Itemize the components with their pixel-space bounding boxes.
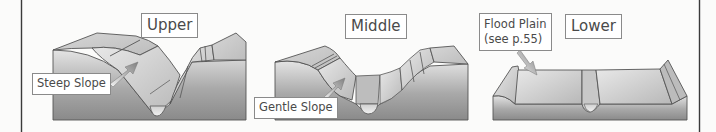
river-valley-diagram: Upper Steep Slope Middle Gentle Slope Fl… xyxy=(0,0,716,132)
lower-valley-block xyxy=(493,50,687,120)
flood-plain-callout-line1: Flood Plain xyxy=(484,17,547,32)
middle-title-label: Middle xyxy=(345,14,407,39)
upper-title-label: Upper xyxy=(141,13,198,38)
lower-title-label: Lower xyxy=(565,14,622,39)
steep-slope-callout: Steep Slope xyxy=(32,73,111,95)
gentle-slope-callout: Gentle Slope xyxy=(254,97,338,119)
flood-plain-callout: Flood Plain (see p.55) xyxy=(479,13,552,51)
flood-plain-callout-line2: (see p.55) xyxy=(484,32,547,47)
